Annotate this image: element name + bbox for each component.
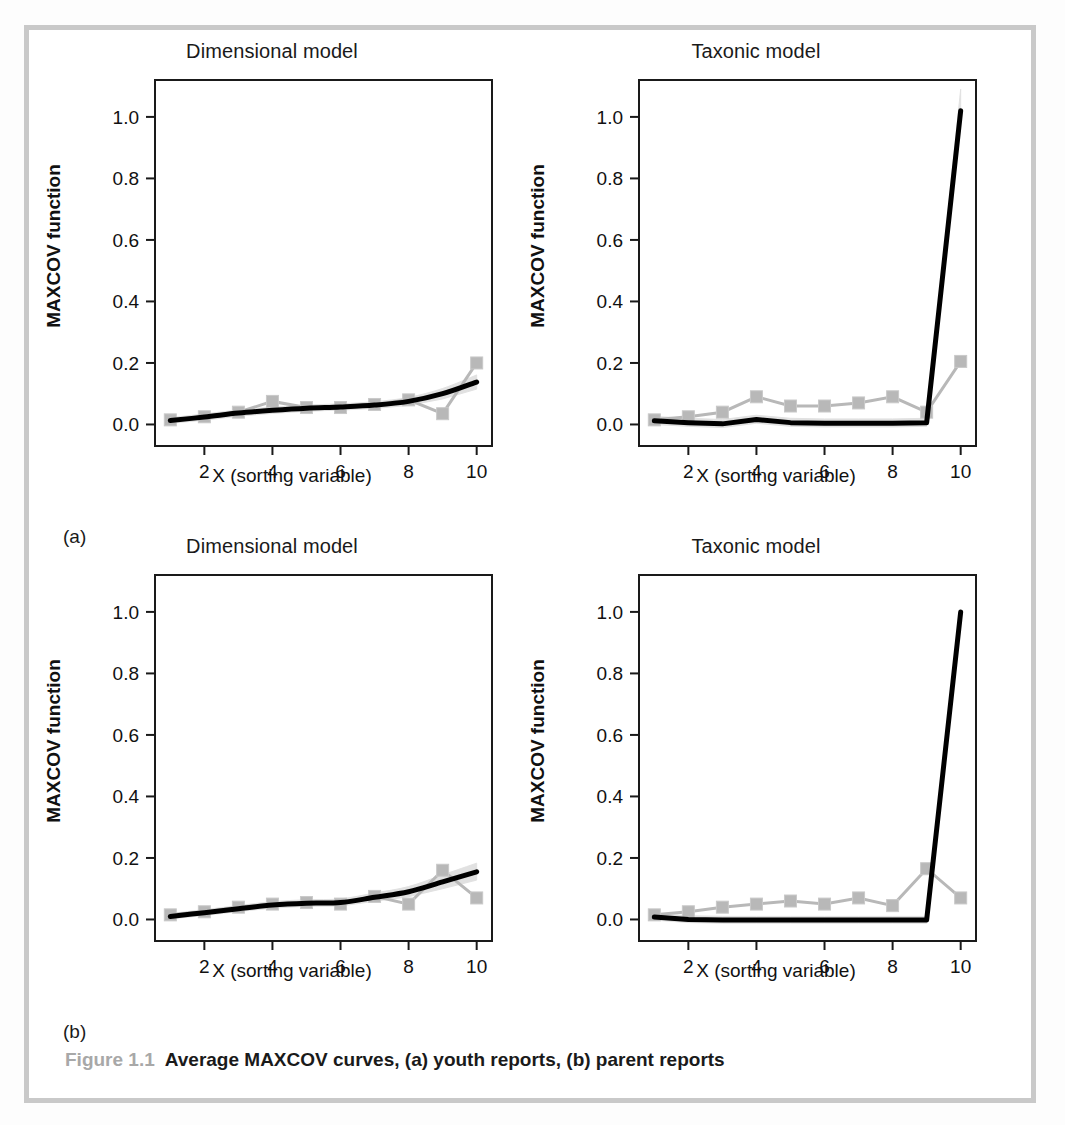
y-tick-label: 1.0 (597, 107, 623, 128)
comparison-model-curve (170, 872, 476, 917)
panel-title-a-taxonic: Taxonic model (521, 40, 991, 63)
y-tick-label: 1.0 (113, 107, 139, 128)
observed-data-marker (682, 906, 694, 918)
y-tick-label: 0.8 (597, 168, 623, 189)
y-tick-label: 0.8 (113, 168, 139, 189)
y-tick-label: 0.0 (597, 414, 623, 435)
plot-a-dimensional: 0.00.20.40.60.81.0246810 (37, 68, 507, 508)
observed-data-marker (853, 892, 865, 904)
observed-data-marker (716, 901, 728, 913)
plot-frame (639, 575, 976, 941)
comparison-model-curve (654, 612, 960, 920)
observed-data-marker (853, 397, 865, 409)
observed-data-marker (750, 391, 762, 403)
observed-data-marker (471, 892, 483, 904)
observed-data-marker (750, 898, 762, 910)
y-axis-title-a-taxonic: MAXCOV function (527, 81, 549, 411)
panel-grid: Dimensional model 0.00.20.40.60.81.02468… (29, 30, 1031, 1030)
observed-data-marker (471, 357, 483, 369)
panel-a-dimensional: Dimensional model 0.00.20.40.60.81.02468… (37, 40, 507, 510)
subpanel-label-a: (a) (63, 526, 86, 548)
y-tick-label: 0.2 (113, 848, 139, 869)
observed-data-marker (437, 408, 449, 420)
y-axis-title-b-taxonic: MAXCOV function (527, 576, 549, 906)
y-tick-label: 0.0 (597, 909, 623, 930)
plot-b-taxonic: 0.00.20.40.60.81.0246810 (521, 563, 991, 1003)
observed-data-marker (437, 864, 449, 876)
comparison-model-curve (654, 111, 960, 424)
confidence-band (654, 617, 960, 923)
observed-curve-line (654, 361, 960, 419)
observed-data-marker (887, 900, 899, 912)
confidence-band (654, 89, 960, 427)
x-axis-title-a-dimensional: X (sorting variable) (77, 465, 507, 487)
panel-b-dimensional: Dimensional model 0.00.20.40.60.81.02468… (37, 535, 507, 1005)
panel-title-b-taxonic: Taxonic model (521, 535, 991, 558)
y-tick-label: 0.6 (113, 725, 139, 746)
observed-data-marker (955, 355, 967, 367)
observed-curve-line (170, 363, 476, 420)
observed-data-marker (784, 895, 796, 907)
y-tick-label: 0.6 (597, 230, 623, 251)
observed-data-marker (784, 400, 796, 412)
figure-caption-number: Figure 1.1 (65, 1049, 155, 1070)
y-axis-title-a-dimensional: MAXCOV function (43, 81, 65, 411)
y-tick-label: 0.8 (597, 663, 623, 684)
y-tick-label: 0.0 (113, 909, 139, 930)
plot-b-dimensional: 0.00.20.40.60.81.0246810 (37, 563, 507, 1003)
observed-data-marker (266, 395, 278, 407)
y-tick-label: 1.0 (113, 602, 139, 623)
y-tick-label: 0.4 (597, 786, 624, 807)
observed-data-marker (955, 892, 967, 904)
figure-caption: Figure 1.1Average MAXCOV curves, (a) you… (65, 1049, 1005, 1071)
panel-b-taxonic: Taxonic model 0.00.20.40.60.81.0246810 M… (521, 535, 991, 1005)
y-tick-label: 0.8 (113, 663, 139, 684)
figure-frame: Dimensional model 0.00.20.40.60.81.02468… (24, 25, 1036, 1103)
y-axis-title-b-dimensional: MAXCOV function (43, 576, 65, 906)
subpanel-label-b: (b) (63, 1021, 86, 1043)
observed-data-marker (819, 898, 831, 910)
y-tick-label: 0.4 (597, 291, 624, 312)
y-tick-label: 0.2 (113, 353, 139, 374)
panel-a-taxonic: Taxonic model 0.00.20.40.60.81.0246810 M… (521, 40, 991, 510)
y-tick-label: 0.6 (597, 725, 623, 746)
x-axis-title-a-taxonic: X (sorting variable) (561, 465, 991, 487)
plot-frame (639, 80, 976, 446)
y-tick-label: 0.4 (113, 786, 140, 807)
observed-data-marker (887, 391, 899, 403)
figure-caption-text: Average MAXCOV curves, (a) youth reports… (165, 1049, 725, 1070)
y-tick-label: 1.0 (597, 602, 623, 623)
y-tick-label: 0.0 (113, 414, 139, 435)
panel-title-b-dimensional: Dimensional model (37, 535, 507, 558)
observed-data-marker (819, 400, 831, 412)
x-axis-title-b-dimensional: X (sorting variable) (77, 960, 507, 982)
y-tick-label: 0.4 (113, 291, 140, 312)
plot-a-taxonic: 0.00.20.40.60.81.0246810 (521, 68, 991, 508)
x-axis-title-b-taxonic: X (sorting variable) (561, 960, 991, 982)
observed-data-marker (403, 898, 415, 910)
panel-title-a-dimensional: Dimensional model (37, 40, 507, 63)
observed-curve-line (654, 869, 960, 915)
figure-page: Dimensional model 0.00.20.40.60.81.02468… (0, 0, 1065, 1125)
y-tick-label: 0.2 (597, 848, 623, 869)
y-tick-label: 0.6 (113, 230, 139, 251)
y-tick-label: 0.2 (597, 353, 623, 374)
observed-data-marker (716, 406, 728, 418)
